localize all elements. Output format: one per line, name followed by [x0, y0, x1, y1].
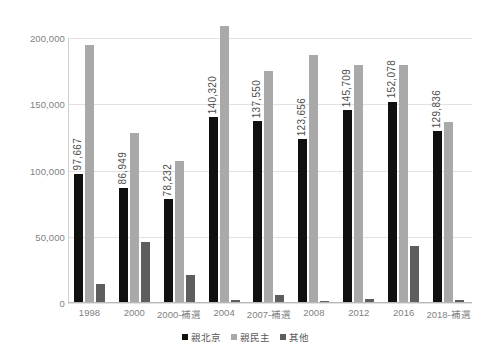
x-axis-tick-label: 1998 — [79, 307, 100, 318]
bar-group: 137,550 — [248, 38, 293, 303]
y-axis-tick-label: 0 — [5, 298, 65, 309]
bar — [119, 188, 128, 303]
bar-group: 86,949 — [113, 38, 158, 303]
bar-data-label: 97,667 — [73, 138, 83, 170]
legend-item[interactable]: 親民主 — [231, 330, 270, 344]
x-axis-tick-label: 2000-補選 — [157, 307, 201, 321]
bar-data-label: 78,232 — [163, 164, 173, 196]
bar — [444, 122, 453, 303]
legend-swatch-icon — [280, 334, 286, 340]
y-axis-tick-label: 150,000 — [5, 99, 65, 110]
bar-data-label: 86,949 — [118, 152, 128, 184]
bar-data-label: 137,550 — [252, 80, 262, 118]
bar-data-label: 129,836 — [432, 90, 442, 128]
bar — [264, 71, 273, 303]
legend-item[interactable]: 其他 — [280, 330, 309, 344]
bar-group: 145,709 — [337, 38, 382, 303]
bar — [354, 65, 363, 304]
bar — [433, 131, 442, 303]
chart-legend: 親北京親民主其他 — [0, 330, 491, 344]
legend-label: 其他 — [289, 330, 309, 344]
legend-swatch-icon — [231, 334, 237, 340]
bar — [85, 45, 94, 303]
bar-group: 152,078 — [382, 38, 427, 303]
y-axis-tick-label: 200,000 — [5, 33, 65, 44]
gridline — [68, 303, 472, 304]
x-axis-tick-label: 2007-補選 — [247, 307, 291, 321]
bar — [388, 102, 397, 304]
x-axis-tick-label: 2016 — [393, 307, 414, 318]
x-axis-tick-label: 2000 — [124, 307, 145, 318]
bar — [410, 246, 419, 303]
y-axis-tick-label: 50,000 — [5, 231, 65, 242]
bar — [74, 174, 83, 303]
legend-label: 親民主 — [240, 330, 270, 344]
legend-swatch-icon — [182, 334, 188, 340]
bar-group: 129,836 — [427, 38, 472, 303]
bar-group: 123,656 — [292, 38, 337, 303]
x-axis-tick-label: 2008 — [303, 307, 324, 318]
plot-area: 97,66786,94978,232140,320137,550123,6561… — [68, 38, 472, 303]
bar-data-label: 152,078 — [387, 60, 397, 98]
legend-item[interactable]: 親北京 — [182, 330, 221, 344]
bar-group: 78,232 — [158, 38, 203, 303]
bar-data-label: 140,320 — [208, 76, 218, 114]
bar — [141, 242, 150, 303]
bar-data-label: 145,709 — [342, 69, 352, 107]
bar — [399, 65, 408, 304]
bar — [220, 26, 229, 303]
bar — [164, 199, 173, 303]
bar — [175, 161, 184, 303]
bar-group: 97,667 — [68, 38, 113, 303]
bar-data-label: 123,656 — [297, 98, 307, 136]
x-axis-tick-label: 2012 — [348, 307, 369, 318]
bar — [130, 133, 139, 303]
y-axis-tick-label: 100,000 — [5, 165, 65, 176]
bar — [343, 110, 352, 303]
bar-group: 140,320 — [203, 38, 248, 303]
x-axis-tick-label: 2004 — [214, 307, 235, 318]
bar — [209, 117, 218, 303]
x-axis-tick-label: 2018-補選 — [426, 307, 470, 321]
bar — [253, 121, 262, 303]
x-axis-line — [68, 302, 472, 303]
legend-label: 親北京 — [191, 330, 221, 344]
bar — [298, 139, 307, 303]
bar — [309, 55, 318, 303]
bar — [96, 284, 105, 303]
bar — [186, 275, 195, 303]
bar-chart: 050,000100,000150,000200,000 97,66786,94… — [0, 0, 491, 351]
